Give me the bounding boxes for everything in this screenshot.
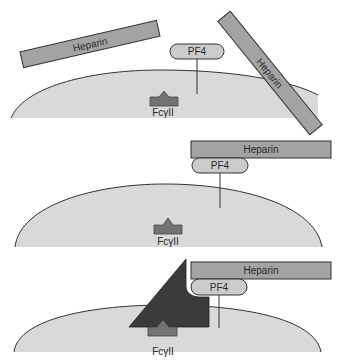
heparin-molecule: Heparin xyxy=(191,141,331,158)
heparin-label: Heparin xyxy=(243,144,278,155)
heparin-molecule: Heparin xyxy=(20,20,160,67)
pf4-molecule: PF4 xyxy=(191,279,247,295)
fc-receptor-label: FcγII xyxy=(152,346,174,357)
hit-mechanism-diagram: PF4 Heparin Heparin FcγII Heparin PF4 xyxy=(0,0,350,362)
fc-receptor-label: FcγII xyxy=(157,236,179,247)
pf4-label: PF4 xyxy=(210,282,229,293)
pf4-label: PF4 xyxy=(211,160,230,171)
panel-3: Heparin PF4 FcγII xyxy=(14,259,331,357)
fc-receptor-label: FcγII xyxy=(152,107,174,118)
pf4-molecule: PF4 xyxy=(192,158,248,173)
heparin-label: Heparin xyxy=(243,265,278,276)
panel-1: PF4 Heparin Heparin FcγII xyxy=(11,11,322,135)
panel-2: Heparin PF4 FcγII xyxy=(15,141,331,247)
heparin-molecule: Heparin xyxy=(191,262,331,279)
pf4-label: PF4 xyxy=(188,46,207,57)
pf4-molecule: PF4 xyxy=(170,44,224,59)
